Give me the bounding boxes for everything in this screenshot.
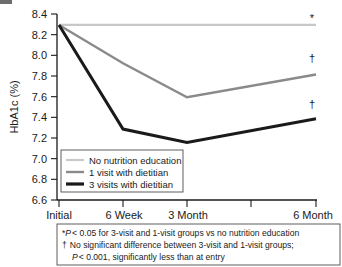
x-axis-ticks [59,200,316,207]
footnote-p-italic-2: P [72,252,78,262]
footnote-p-italic-1: P [65,228,71,238]
significance-marker-dagger-1-visit: † [309,52,315,64]
y-axis-title: HbA1c (%) [8,80,20,133]
y-tick-label-8.0: 8.0 [32,49,47,61]
x-tick-label-6-month: 6 Month [293,209,333,221]
y-tick-label-7.4: 7.4 [32,111,47,123]
corner-artifact [0,0,12,4]
significance-marker-dagger-3-visits: † [309,98,315,110]
y-tick-label-7.6: 7.6 [32,91,47,103]
y-tick-label-6.6: 6.6 [32,194,47,206]
y-axis-ticks [51,14,57,200]
significance-marker-asterisk: * [310,12,315,24]
hba1c-line-chart: 8.4 8.2 8.0 7.8 7.6 7.4 7.2 7.0 6.8 6.6 … [0,0,342,267]
y-tick-label-6.8: 6.8 [32,173,47,185]
footnote-line-1: *P< 0.05 for 3-visit and 1-visit groups … [62,228,299,238]
footnote-dagger: † [62,240,67,250]
figure-container: 8.4 8.2 8.0 7.8 7.6 7.4 7.2 7.0 6.8 6.6 … [0,0,342,267]
footnote-line-2-rest: No significant difference between 3-visi… [70,240,294,250]
y-tick-label-7.2: 7.2 [32,132,47,144]
y-tick-label-8.4: 8.4 [32,8,47,20]
y-tick-label-8.2: 8.2 [32,29,47,41]
y-tick-label-7.0: 7.0 [32,153,47,165]
y-tick-label-7.8: 7.8 [32,70,47,82]
footnote-box-group: *P< 0.05 for 3-visit and 1-visit groups … [57,224,340,265]
legend-label-1-visit: 1 visit with dietitian [89,167,168,178]
series-line-3-visits [59,25,316,143]
footnote-line-3-rest: < 0.001, significantly less than at entr… [79,252,226,262]
chart-legend: No nutrition education 1 visit with diet… [61,150,183,192]
x-tick-label-6-week: 6 Week [105,209,143,221]
legend-label-no-nutrition-education: No nutrition education [89,155,181,166]
x-tick-label-initial: Initial [46,209,72,221]
x-tick-label-3-month: 3 Month [168,209,208,221]
legend-label-3-visits: 3 visits with dietitian [89,179,173,190]
footnote-line-3: P< 0.001, significantly less than at ent… [72,252,225,262]
footnote-line-1-rest: < 0.05 for 3-visit and 1-visit groups vs… [72,228,299,238]
footnote-line-2: †No significant difference between 3-vis… [62,240,294,250]
